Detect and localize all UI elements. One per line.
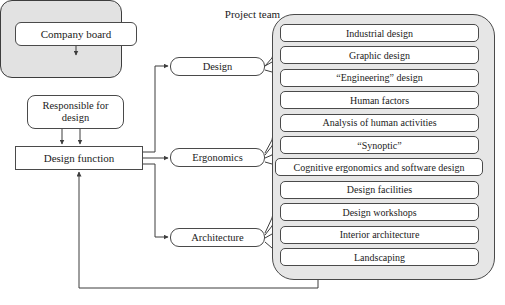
speciality-item[interactable]: Interior architecture bbox=[280, 226, 479, 244]
speciality-item[interactable]: Human factors bbox=[280, 91, 479, 109]
category-ergonomics[interactable]: Ergonomics bbox=[170, 148, 265, 167]
organisation-diagram: Company board Project team Responsible f… bbox=[0, 0, 505, 305]
speciality-item[interactable]: “Engineering” design bbox=[280, 69, 479, 87]
speciality-item[interactable]: Cognitive ergonomics and software design bbox=[275, 158, 483, 176]
speciality-item[interactable]: Analysis of human activities bbox=[280, 114, 479, 132]
speciality-item[interactable]: Industrial design bbox=[280, 24, 479, 42]
speciality-item[interactable]: Landscaping bbox=[280, 248, 479, 266]
speciality-item[interactable]: “Synoptic” bbox=[280, 136, 479, 154]
speciality-item[interactable]: Design facilities bbox=[280, 181, 479, 199]
speciality-item[interactable]: Design workshops bbox=[280, 203, 479, 221]
speciality-item[interactable]: Graphic design bbox=[280, 46, 479, 64]
node-company-board[interactable]: Company board bbox=[15, 22, 137, 46]
node-responsible-for-design[interactable]: Responsible for design bbox=[27, 95, 124, 129]
category-design[interactable]: Design bbox=[170, 57, 265, 76]
node-design-function[interactable]: Design function bbox=[15, 146, 143, 170]
category-architecture[interactable]: Architecture bbox=[170, 228, 265, 247]
